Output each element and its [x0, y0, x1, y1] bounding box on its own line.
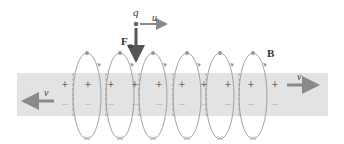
charge-label: q	[133, 6, 139, 18]
loop-bottom-marks	[84, 136, 256, 140]
velocity-right-label: v	[297, 71, 302, 82]
charge-velocity-label: u	[152, 12, 157, 23]
svg-text:+: +	[132, 78, 139, 92]
svg-text:+: +	[62, 78, 69, 92]
svg-text:–: –	[271, 97, 278, 109]
charge-q	[134, 22, 139, 27]
force-label: F	[121, 35, 128, 47]
svg-text:–: –	[84, 97, 91, 109]
svg-text:+: +	[248, 78, 255, 92]
svg-text:+: +	[225, 78, 232, 92]
svg-text:–: –	[178, 97, 185, 109]
svg-text:+: +	[85, 78, 92, 92]
svg-text:–: –	[224, 97, 231, 109]
svg-text:–: –	[247, 97, 254, 109]
svg-text:–: –	[131, 97, 138, 109]
svg-text:+: +	[108, 78, 115, 92]
loop-markers	[85, 51, 267, 67]
svg-text:+: +	[156, 78, 163, 92]
svg-text:–: –	[107, 97, 114, 109]
svg-text:–: –	[200, 97, 207, 109]
velocity-left-label: v	[44, 87, 49, 98]
svg-text:+: +	[179, 78, 186, 92]
svg-text:+: +	[272, 78, 279, 92]
svg-text:–: –	[61, 97, 68, 109]
svg-text:+: +	[201, 78, 208, 92]
wire-field-diagram: + + + + + + + + + + – – – – – – – – – – …	[0, 0, 344, 144]
svg-text:–: –	[155, 97, 162, 109]
field-label: B	[267, 47, 275, 59]
force-subscript: B	[128, 42, 133, 50]
